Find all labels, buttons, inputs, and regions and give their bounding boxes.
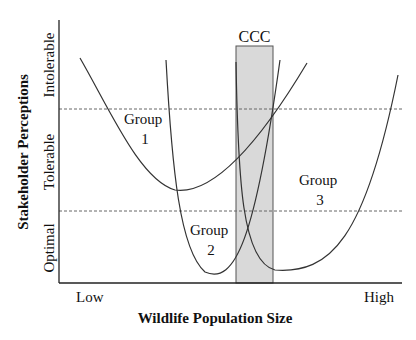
- group-1-label: Group 1: [124, 111, 166, 147]
- x-tick-low: Low: [76, 289, 104, 305]
- y-axis-title: Stakeholder Perceptions: [15, 74, 31, 230]
- group-2-label: Group 2: [190, 222, 232, 258]
- y-tick-optimal: Optimal: [41, 223, 57, 272]
- y-tick-tolerable: Tolerable: [41, 133, 57, 190]
- x-tick-high: High: [364, 289, 395, 305]
- diagram: CCC Group 1 Group 2 Group 3 Low High Wil…: [0, 0, 416, 340]
- ccc-label: CCC: [238, 28, 270, 45]
- group-3-label: Group 3: [299, 172, 341, 208]
- y-tick-intolerable: Intolerable: [41, 32, 57, 97]
- x-axis-title: Wildlife Population Size: [138, 310, 293, 326]
